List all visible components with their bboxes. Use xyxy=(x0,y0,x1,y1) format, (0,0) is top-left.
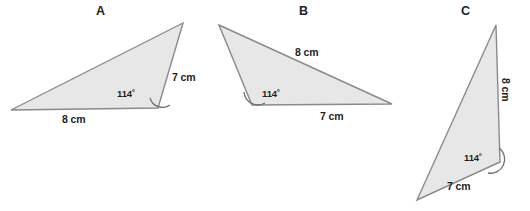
triangle-a-angle-label: 114˚ xyxy=(117,89,135,99)
triangle-a-label: A xyxy=(96,5,105,18)
triangle-c-group xyxy=(417,25,505,200)
triangle-c-shape xyxy=(417,25,500,200)
triangle-c-side-lower-label: 7 cm xyxy=(447,181,471,192)
triangle-b-label: B xyxy=(299,5,308,18)
geometry-figure-canvas: A 8 cm 7 cm 114˚ B 8 cm 7 cm 114˚ C 8 cm… xyxy=(0,0,530,211)
triangle-a-side-right-label: 7 cm xyxy=(172,72,196,83)
triangle-c-side-vertical-label: 8 cm xyxy=(501,78,512,102)
triangle-b-shape xyxy=(219,25,392,105)
triangle-b-side-base-label: 7 cm xyxy=(320,111,344,122)
triangle-b-group xyxy=(219,25,392,105)
triangle-a-group xyxy=(11,23,183,110)
triangle-b-side-hypotenuse-label: 8 cm xyxy=(295,47,319,58)
triangle-a-shape xyxy=(11,23,183,110)
triangle-c-label: C xyxy=(461,5,470,18)
triangle-a-side-base-label: 8 cm xyxy=(62,114,86,125)
triangle-c-angle-label: 114˚ xyxy=(464,153,482,163)
triangle-b-angle-label: 114˚ xyxy=(262,89,280,99)
